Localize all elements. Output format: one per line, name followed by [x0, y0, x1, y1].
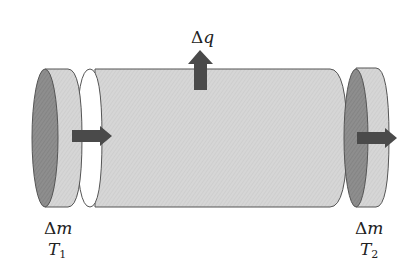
inlet-temp-label: T1	[48, 241, 66, 260]
outlet-mass-symbol: m	[367, 218, 383, 238]
outlet-temp-subscript: 2	[371, 248, 378, 261]
inlet-mass-label: Δm	[44, 220, 72, 237]
main-cylinder	[95, 69, 347, 207]
inlet-mass-symbol: m	[56, 218, 72, 238]
inlet-temp-symbol: T	[48, 239, 59, 259]
inlet-temp-subscript: 1	[59, 248, 66, 261]
outlet-mass-label: Δm	[355, 220, 383, 237]
heat-symbol: q	[203, 27, 214, 47]
heat-delta: Δ	[191, 27, 203, 47]
inlet-mass-delta: Δ	[44, 218, 56, 238]
outlet-temp-symbol: T	[360, 239, 371, 259]
outlet-temp-label: T2	[360, 241, 378, 260]
heat-label: Δq	[191, 29, 214, 46]
outlet-mass-delta: Δ	[355, 218, 367, 238]
